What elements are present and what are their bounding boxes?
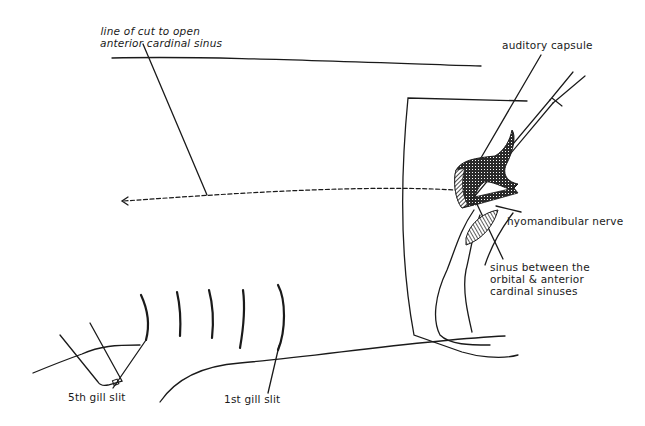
first-gill-leader (268, 346, 279, 393)
gill-slit-4 (177, 292, 180, 336)
sinus-label-line1: sinus between the (490, 261, 590, 273)
first-gill-slit-label: 1st gill slit (224, 393, 280, 405)
gill-slit-2 (240, 290, 244, 348)
sinus-label-line3: cardinal sinuses (490, 285, 590, 297)
hyomandibular-leader (496, 206, 521, 212)
line-of-cut-label: line of cut to open anterior cardinal si… (100, 25, 200, 49)
diagram-drawing (0, 0, 645, 426)
sinus-label-line2: orbital & anterior (490, 273, 590, 285)
right-flap-outline (403, 98, 527, 357)
hyomandibular-nerve-label: hyomandibular nerve (507, 215, 623, 227)
gill-slit-3 (209, 290, 213, 338)
fifth-gill-slit-label: 5th gill slit (68, 391, 126, 403)
cut-label-leader (143, 44, 207, 195)
gill-slit-1 (278, 285, 284, 350)
line-of-cut (124, 188, 470, 201)
dissection-diagram: line of cut to open anterior cardinal si… (0, 0, 645, 426)
sinus-between-label: sinus between the orbital & anterior car… (490, 261, 590, 297)
lower-body-curve (160, 336, 505, 402)
auditory-capsule-label: auditory capsule (502, 39, 593, 51)
upper-flap-edge (112, 57, 481, 66)
gill-slit-5 (141, 295, 148, 340)
line-of-cut-label-line2: anterior cardinal sinus (100, 37, 200, 49)
line-of-cut-label-line1: line of cut to open (100, 25, 200, 37)
probe-handle (550, 72, 585, 106)
lower-flap (60, 323, 122, 385)
